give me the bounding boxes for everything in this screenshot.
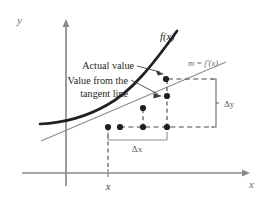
point-tangency-on-tangent [117,124,123,130]
delta-y-label: Δy [224,99,235,109]
diagram-svg: y x f(x) m = f'(x) Actual value Value fr… [0,0,266,201]
x-tick-label: x [105,181,111,192]
point-tangent-value [164,93,170,99]
y-axis-label: y [16,14,22,26]
delta-x-label: Δx [132,144,143,154]
derivative-diagram-canvas: y x f(x) m = f'(x) Actual value Value fr… [0,0,266,201]
point-mid-on-tangent [140,105,146,111]
point-tangency-on-curve [105,124,111,130]
tangent-slope-label: m = f'(x) [188,58,218,68]
point-base-mid [140,124,146,130]
callout-tangent-line-1: Value from the [67,75,128,86]
x-axis-label: x [248,178,254,190]
function-curve-label: f(x) [160,31,175,43]
point-actual-value [163,76,169,82]
callout-actual-value: Actual value [82,60,134,71]
point-base-right [164,124,170,130]
callout-tangent-line-2: tangent line [80,88,128,99]
